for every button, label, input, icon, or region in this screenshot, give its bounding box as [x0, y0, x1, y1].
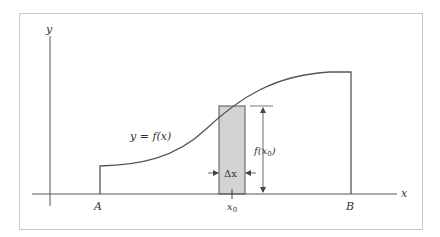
x0-label: x0 — [227, 201, 237, 214]
delta-x-strip — [219, 106, 245, 194]
y-axis-label: y — [45, 23, 53, 36]
f-x0-label: f(x0) — [253, 145, 276, 158]
point-a-label: A — [93, 200, 102, 213]
integral-diagram: y x y = f(x) A B x0 Δx f(x0) — [0, 0, 440, 237]
delta-x-label: Δx — [224, 168, 237, 179]
x-axis-label: x — [401, 187, 408, 200]
point-b-label: B — [345, 200, 354, 213]
curve-label: y = f(x) — [129, 130, 171, 143]
